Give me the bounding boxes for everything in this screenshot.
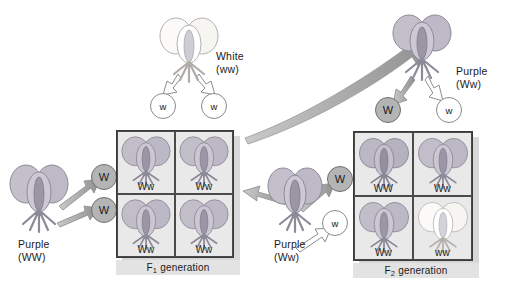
gamete-topright-parent-w-upper-label: W [383,104,393,116]
gamete-top-parent-1-label: w [160,101,167,112]
f2-cell-1-flower [355,133,412,190]
parent-top-label: White (ww) [216,50,278,75]
flower-parent-top-white [158,12,220,84]
f1-generation-caption: F1 generation [116,260,240,275]
gamete-left-parent-1: W [91,164,117,190]
f2-cell-1: WW [354,132,413,196]
gamete-middle-parent-w-upper: W [327,166,353,192]
f1-cell-1: Ww [117,131,175,194]
flower-parent-topright-purple [391,8,453,82]
gamete-middle-parent-w-lower: w [322,210,348,236]
f2-generation-caption: F2 generation [353,263,479,278]
f1-caption-f: F [147,262,153,273]
f1-caption-sub: 1 [153,266,157,275]
f2-punnett-square: WW Ww [353,131,473,261]
f2-cell-2-genotype: Ww [434,183,451,195]
f2-caption-f: F [385,265,391,276]
gamete-top-parent-2-label: w [211,101,218,112]
f1-cell-2-genotype: Ww [195,181,212,193]
f2-cell-3-genotype: Ww [375,247,392,259]
f1-cell-3: Ww [117,194,175,257]
gamete-left-parent-1-label: W [99,171,109,183]
gamete-middle-parent-w-upper-label: W [335,173,345,185]
f2-cell-4: ww [413,196,472,260]
gamete-left-parent-2-label: W [99,204,109,216]
parent-left-label: Purple (WW) [18,238,88,263]
f1-cell-3-flower [118,195,174,251]
f1-cell-2-flower [176,132,232,188]
f1-cell-2: Ww [175,131,233,194]
gamete-top-parent-1: w [150,93,176,119]
f1-cell-1-flower [118,132,174,188]
f2-cell-2: Ww [413,132,472,196]
flower-parent-middle-purple [266,162,324,234]
parent-middle-label: Purple (Ww) [274,238,336,263]
f1-cell-4-genotype: Ww [195,244,212,256]
f2-cell-3-flower [355,197,412,254]
f2-cell-4-genotype: ww [435,247,450,259]
f1-cell-4-flower [176,195,232,251]
gamete-topright-parent-w-upper: W [375,97,401,123]
f1-cell-1-genotype: Ww [137,181,154,193]
f2-cell-4-flower [414,197,471,254]
f2-cell-1-genotype: WW [374,183,393,195]
f1-punnett-square: Ww Ww [116,130,234,258]
gamete-top-parent-2: w [201,93,227,119]
f2-caption-sub: 2 [391,269,395,278]
gamete-topright-parent-w-lower-label: w [446,105,453,116]
gamete-middle-parent-w-lower-label: w [332,218,339,229]
f1-cell-3-genotype: Ww [137,244,154,256]
parent-topright-label: Purple (Ww) [456,65,514,90]
f2-cell-2-flower [414,133,471,190]
gamete-left-parent-2: W [91,197,117,223]
f1-caption-rest: generation [157,262,209,273]
f2-cell-3: Ww [354,196,413,260]
flower-parent-left-purple [8,158,70,234]
gamete-topright-parent-w-lower: w [436,97,462,123]
f1-cell-4: Ww [175,194,233,257]
genetics-diagram-canvas: Purple (WW) W W White (ww) w w [0,0,514,292]
f2-caption-rest: generation [395,265,447,276]
